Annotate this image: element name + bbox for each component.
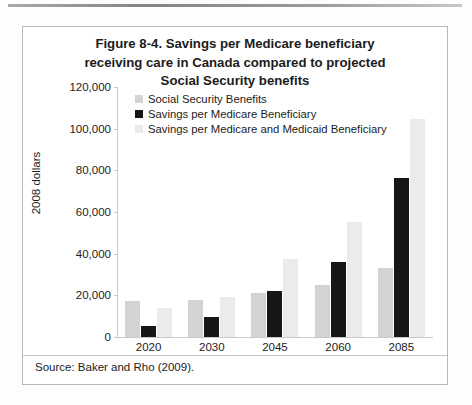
x-axis-line	[117, 337, 433, 338]
y-axis-tick-labels: 120,000100,00080,00060,00040,00020,0000	[53, 87, 111, 337]
legend-item: Social Security Benefits	[135, 93, 387, 105]
legend-item: Savings per Medicare Beneficiary	[135, 108, 387, 120]
bar	[331, 262, 346, 337]
y-axis-tick-label: 40,000	[76, 248, 111, 260]
legend-swatch-icon	[135, 125, 143, 133]
y-axis-tick-label: 100,000	[69, 123, 111, 135]
y-axis-tick-label: 60,000	[76, 206, 111, 218]
legend-label: Savings per Medicare Beneficiary	[148, 108, 316, 120]
bar	[347, 222, 362, 337]
figure-container: Figure 8-4. Savings per Medicare benefic…	[22, 26, 448, 385]
bar	[188, 300, 203, 338]
y-axis-tick-label: 20,000	[76, 289, 111, 301]
bar	[125, 301, 140, 337]
legend-swatch-icon	[135, 95, 143, 103]
bar	[315, 285, 330, 337]
bar	[378, 268, 393, 337]
bar	[204, 317, 219, 337]
legend-swatch-icon	[135, 110, 143, 118]
x-axis-tick-label: 2060	[311, 341, 365, 353]
legend-label: Social Security Benefits	[148, 93, 267, 105]
legend-item: Savings per Medicare and Medicaid Benefi…	[135, 123, 387, 135]
x-axis-tick-label: 2045	[248, 341, 302, 353]
bar	[394, 178, 409, 337]
source-divider	[23, 355, 447, 356]
x-axis-tick-labels: 20202030204520602085	[117, 341, 433, 353]
y-axis-tick-label: 80,000	[76, 164, 111, 176]
chart-legend: Social Security BenefitsSavings per Medi…	[135, 93, 387, 135]
plot-wrapper: 2008 dollars 120,000100,00080,00060,0004…	[23, 27, 449, 386]
bar	[251, 293, 266, 337]
x-axis-tick-label: 2020	[122, 341, 176, 353]
legend-label: Savings per Medicare and Medicaid Benefi…	[148, 123, 387, 135]
source-note: Source: Baker and Rho (2009).	[35, 361, 194, 373]
bar	[157, 308, 172, 337]
bar	[141, 326, 156, 337]
scanned-page: Figure 8-4. Savings per Medicare benefic…	[0, 0, 472, 405]
x-axis-tick-label: 2030	[185, 341, 239, 353]
bar	[283, 259, 298, 337]
y-axis-tick-label: 0	[105, 331, 111, 343]
bar	[267, 291, 282, 337]
y-axis-tick-label: 120,000	[69, 81, 111, 93]
bar	[410, 119, 425, 337]
x-axis-tick-label: 2085	[374, 341, 428, 353]
scan-edge-line	[8, 4, 462, 7]
bar	[220, 297, 235, 337]
y-axis-title: 2008 dollars	[30, 118, 42, 248]
